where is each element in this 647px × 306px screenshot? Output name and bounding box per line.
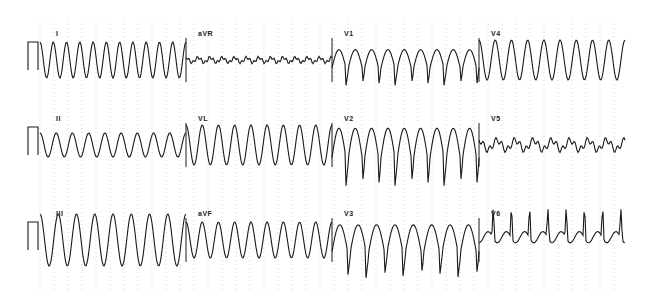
lead-label-v2: V2	[344, 115, 354, 122]
ecg-traces	[28, 38, 625, 278]
lead-trace-v6	[479, 209, 625, 242]
lead-label-avr: aVR	[198, 30, 213, 37]
lead-label-iii: III	[56, 210, 63, 217]
lead-trace-v2	[332, 128, 479, 186]
lead-label-v5: V5	[491, 115, 501, 122]
lead-trace-v5	[479, 138, 625, 153]
lead-label-i: I	[56, 30, 58, 37]
calibration-pulse	[28, 222, 38, 250]
ecg-tracing	[0, 0, 647, 306]
calibration-pulse	[28, 127, 38, 155]
lead-label-v4: V4	[491, 30, 501, 37]
lead-trace-v4	[479, 40, 625, 80]
lead-label-v6: V6	[491, 210, 501, 217]
lead-trace-v3	[332, 225, 479, 278]
lead-label-ii: II	[56, 115, 61, 122]
lead-trace-ii	[40, 133, 186, 157]
lead-label-avf: aVF	[198, 210, 212, 217]
lead-trace-iii	[40, 214, 186, 266]
lead-trace-v1	[332, 50, 479, 86]
lead-trace-i	[40, 42, 186, 78]
calibration-pulse	[28, 42, 38, 70]
lead-trace-avr	[186, 56, 332, 63]
lead-label-vl: VL	[198, 115, 208, 122]
lead-label-v3: V3	[344, 210, 354, 217]
lead-label-v1: V1	[344, 30, 354, 37]
